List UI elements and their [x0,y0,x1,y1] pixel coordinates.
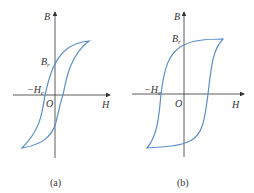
origin-label-a: O [46,98,53,109]
b-label-a: B [44,11,50,22]
h-label-a: H [101,99,110,110]
hc-label-b: −Hc [144,84,162,97]
caption-a: (a) [50,177,61,189]
br-label-a: Br [41,56,50,69]
br-label-b: Br [172,33,181,46]
caption-b: (b) [177,177,189,189]
origin-label-b: O [175,98,182,109]
loop-a-panel: B H O Br −Hc (a) [13,11,110,189]
b-label-b: B [174,11,180,22]
loop-b-panel: B H O Br −Hc (b) [132,11,244,189]
hysteresis-figure: B H O Br −Hc (a) B H O Br −Hc (b) [0,0,254,193]
h-label-b: H [231,99,240,110]
